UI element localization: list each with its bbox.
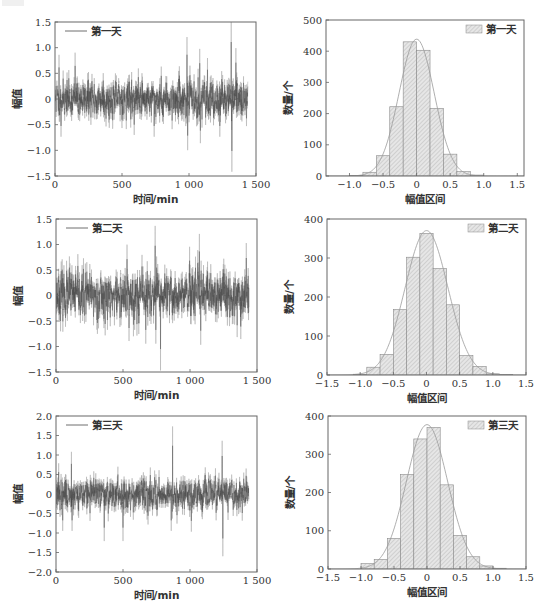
y-axis-label: 数量/个 xyxy=(283,279,295,315)
plot-area xyxy=(326,39,524,176)
chart-panel-hist2: −1.5−1.0−0.500.51.01.50100200300400幅值区间数… xyxy=(283,214,534,405)
y-tick-label: 0.5 xyxy=(36,265,52,276)
x-axis-label: 时间/min xyxy=(134,389,180,401)
y-tick-label: −0.5 xyxy=(28,316,52,327)
histogram-bar xyxy=(393,309,406,375)
chart-panel-hist1: −1.0−0.500.51.01.50100200300400500幅值区间数量… xyxy=(282,15,525,206)
y-tick-label: 300 xyxy=(305,449,324,460)
y-tick-label: 200 xyxy=(305,487,324,498)
histogram-bar xyxy=(403,42,416,176)
plot-area xyxy=(55,19,248,172)
y-tick-label: 0.5 xyxy=(36,469,52,480)
y-tick-label: 100 xyxy=(305,525,324,536)
histogram-bar xyxy=(376,156,389,176)
y-tick-label: −2.0 xyxy=(28,567,52,578)
x-tick-label: 0 xyxy=(53,375,59,386)
legend-label: 第二天 xyxy=(92,222,123,234)
x-tick-label: 0.5 xyxy=(442,179,458,190)
x-tick-label: 1.0 xyxy=(485,572,501,583)
histogram-bar xyxy=(417,50,430,176)
x-tick-label: 500 xyxy=(112,179,131,190)
histogram-bar xyxy=(443,154,456,176)
x-tick-label: 1.5 xyxy=(509,179,525,190)
y-tick-label: −0.5 xyxy=(28,508,52,519)
x-tick-label: −1.0 xyxy=(349,572,373,583)
plot-area xyxy=(327,231,526,375)
histogram-bar xyxy=(401,475,414,569)
x-tick-label: −1.0 xyxy=(337,179,361,190)
x-tick-label: 1 000 xyxy=(175,179,204,190)
y-tick-label: 0.5 xyxy=(35,68,51,79)
y-tick-label: 1.5 xyxy=(36,430,52,441)
x-tick-label: 1 000 xyxy=(176,575,205,586)
histogram-bar xyxy=(387,538,400,569)
y-tick-label: 1.0 xyxy=(35,42,51,53)
figure-canvas: 05001 0001 500−1.5−1.0−0.500.51.01.5时间/m… xyxy=(0,0,545,610)
chart-panel-ts3: 05001 0001 500−2.0−1.5−1.0−0.500.51.01.5… xyxy=(12,411,271,602)
histogram-bar xyxy=(453,535,466,569)
y-tick-label: 300 xyxy=(303,77,322,88)
y-tick-label: 200 xyxy=(304,292,323,303)
y-tick-label: 100 xyxy=(303,139,322,150)
histogram-bar xyxy=(420,233,433,375)
y-axis-label: 幅值 xyxy=(12,483,24,504)
legend-label: 第三天 xyxy=(92,419,123,431)
x-tick-label: 0 xyxy=(413,179,419,190)
y-tick-label: 0 xyxy=(45,94,51,105)
x-axis-label: 时间/min xyxy=(133,193,179,205)
plot-area xyxy=(56,226,249,371)
plot-area xyxy=(56,426,249,556)
y-tick-label: 1.5 xyxy=(35,17,51,28)
x-tick-label: −0.5 xyxy=(381,378,405,389)
y-tick-label: 400 xyxy=(305,411,324,422)
y-axis-label: 数量/个 xyxy=(284,475,296,511)
y-tick-label: −1.5 xyxy=(28,547,52,558)
x-tick-label: 1 500 xyxy=(243,575,272,586)
y-axis-label: 数量/个 xyxy=(282,80,294,116)
y-tick-label: −1.5 xyxy=(27,171,51,182)
y-tick-label: 0 xyxy=(318,564,324,575)
y-tick-label: 400 xyxy=(304,214,323,225)
series-line xyxy=(56,446,249,539)
chart-panel-ts2: 05001 0001 500−1.5−1.0−0.500.51.01.5时间/m… xyxy=(12,214,271,402)
x-axis-label: 幅值区间 xyxy=(405,193,445,205)
x-tick-label: −0.5 xyxy=(371,179,395,190)
x-tick-label: −1.0 xyxy=(348,378,372,389)
x-tick-label: 0 xyxy=(424,572,430,583)
y-tick-label: 400 xyxy=(303,46,322,57)
y-tick-label: 1.0 xyxy=(36,450,52,461)
legend-bar-swatch xyxy=(466,25,482,33)
x-tick-label: 500 xyxy=(113,375,132,386)
y-tick-label: 0 xyxy=(46,489,52,500)
legend-label: 第一天 xyxy=(486,23,517,35)
x-axis-label: 时间/min xyxy=(134,589,180,601)
x-tick-label: 1 500 xyxy=(242,179,271,190)
legend: 第二天 xyxy=(66,222,123,234)
y-tick-label: 300 xyxy=(304,253,323,264)
x-tick-label: 500 xyxy=(113,575,132,586)
x-tick-label: 1.5 xyxy=(518,378,534,389)
plot-area xyxy=(328,425,526,569)
legend-bar-swatch xyxy=(468,421,484,429)
legend: 第三天 xyxy=(66,419,123,431)
histogram-bar xyxy=(427,427,440,569)
y-axis-label: 幅值 xyxy=(12,285,24,306)
x-tick-label: 1 000 xyxy=(176,375,205,386)
y-tick-label: 0 xyxy=(316,171,322,182)
x-tick-label: 0.5 xyxy=(452,378,468,389)
x-tick-label: 1.0 xyxy=(485,378,501,389)
x-tick-label: 0 xyxy=(52,179,58,190)
legend: 第一天 xyxy=(466,23,517,35)
legend-label: 第一天 xyxy=(91,25,122,37)
x-tick-label: 0.5 xyxy=(452,572,468,583)
y-tick-label: −1.0 xyxy=(28,341,52,352)
y-tick-label: 2.0 xyxy=(36,411,52,422)
y-tick-label: −1.0 xyxy=(27,145,51,156)
y-tick-label: −1.0 xyxy=(28,528,52,539)
x-tick-label: 1.0 xyxy=(476,179,492,190)
y-tick-label: 1.5 xyxy=(36,214,52,225)
legend-label: 第二天 xyxy=(488,222,519,234)
y-tick-label: 500 xyxy=(303,15,322,26)
histogram-bar xyxy=(374,559,387,569)
x-tick-label: −0.5 xyxy=(382,572,406,583)
